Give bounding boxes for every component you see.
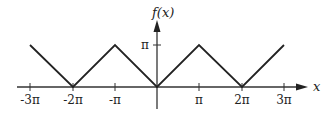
y-axis-arrow-icon [154, 20, 161, 32]
x-tick-label-pi: π [195, 93, 203, 107]
x-tick-label-2pi: 2π [234, 93, 250, 107]
x-tick-label-negpi: -π [109, 93, 121, 107]
triangle-wave-plot: x f(x) π -3π -2π -π π 2π 3π [0, 0, 332, 114]
x-tick-label-3pi: 3π [276, 93, 292, 107]
y-axis-label: f(x) [151, 5, 174, 20]
x-tick-label-neg3pi: -3π [20, 93, 40, 107]
y-tick-label-pi: π [141, 38, 149, 52]
x-axis-arrow-icon [296, 84, 308, 91]
x-axis-label: x [313, 79, 321, 94]
x-tick-label-neg2pi: -2π [63, 93, 83, 107]
